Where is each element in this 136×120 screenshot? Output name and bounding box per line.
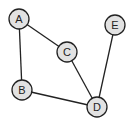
- node-a-label: A: [15, 13, 23, 25]
- edges: [19, 19, 115, 107]
- graph-diagram: A B C D E: [0, 0, 136, 120]
- node-b-label: B: [18, 84, 25, 96]
- edge-a-b: [19, 19, 22, 90]
- edge-e-d: [97, 25, 115, 107]
- node-a: A: [9, 9, 29, 29]
- node-e-label: E: [111, 19, 118, 31]
- node-b: B: [12, 80, 32, 100]
- node-c-label: C: [63, 46, 71, 58]
- edge-b-d: [22, 90, 97, 107]
- node-e: E: [105, 15, 125, 35]
- node-c: C: [57, 42, 77, 62]
- node-d: D: [87, 97, 107, 117]
- node-d-label: D: [93, 101, 101, 113]
